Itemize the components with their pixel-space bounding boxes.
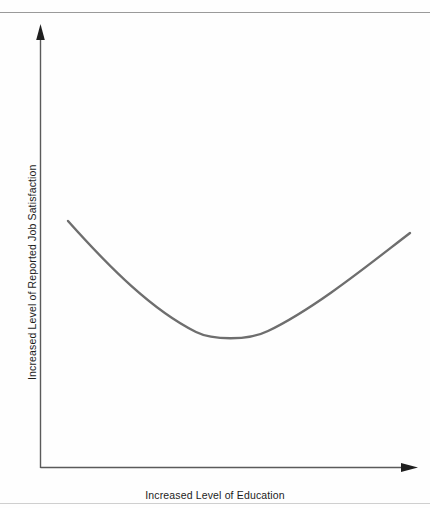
- arrow-up-icon: [36, 24, 45, 40]
- data-curve: [68, 221, 410, 338]
- x-axis-label: Increased Level of Education: [0, 489, 430, 501]
- figure-container: Increased Level of Reported Job Satisfac…: [0, 0, 430, 508]
- chart-plot-area: [0, 0, 430, 508]
- arrow-right-icon: [401, 463, 418, 472]
- y-axis-label: Increased Level of Reported Job Satisfac…: [26, 164, 38, 380]
